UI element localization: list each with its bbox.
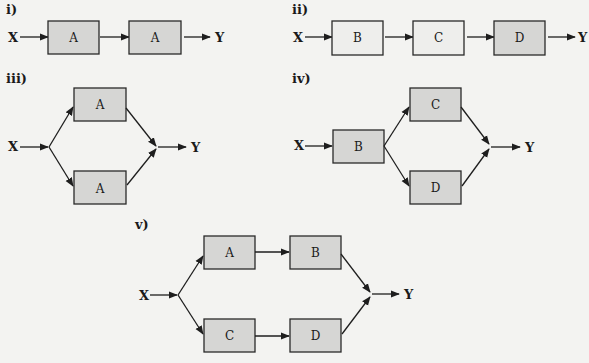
block-c-label: C [225,329,234,343]
diagram-iii-label: iii) [6,71,27,86]
diagram-ii-output: Y [577,30,588,45]
diagram-ii-label: ii) [292,2,308,17]
diagram-v-output: Y [403,287,414,302]
block-a-2-label: A [150,31,160,45]
block-a-bottom-label: A [95,182,105,196]
diagram-i-output: Y [214,30,225,45]
diagram-iv-output: Y [524,140,535,155]
diagram-iv-input: X [294,138,305,153]
arrow [127,149,156,185]
arrow [178,295,203,334]
diagram-i: i) X A A Y [6,2,225,54]
block-c-label: C [431,98,440,112]
arrow [49,107,73,147]
diagram-v-input: X [139,288,150,303]
arrow [462,149,489,186]
arrow [49,147,73,186]
diagram-canvas: i) X A A Y ii) X B C D Y iii) X A A [0,0,589,363]
block-a-top-label: A [95,98,105,112]
block-d-label: D [431,181,441,195]
block-b-label: B [354,140,363,154]
arrow [341,254,370,292]
diagram-iii: iii) X A A Y [6,71,201,204]
block-a-label: A [224,246,234,260]
diagram-ii-input: X [293,30,304,45]
diagram-iv-label: iv) [292,71,311,86]
diagram-i-label: i) [6,2,17,17]
block-b-label: B [311,246,320,260]
block-c-label: C [434,31,443,45]
diagram-iii-output: Y [190,140,201,155]
reliability-block-diagrams: i) X A A Y ii) X B C D Y iii) X A A [0,0,589,363]
diagram-iv: iv) X B C D Y [292,71,535,204]
arrow [384,146,409,186]
block-d-label: D [515,31,525,45]
diagram-v: v) X A B C D Y [134,217,414,352]
block-b-label: B [353,31,362,45]
diagram-i-input: X [8,30,19,45]
block-d-label: D [311,329,321,343]
diagram-iii-input: X [8,139,19,154]
arrow [461,107,489,144]
diagram-v-label: v) [134,217,149,232]
arrow [126,108,156,146]
arrow [178,256,203,295]
arrow [384,107,409,146]
arrow [342,297,370,334]
block-a-1-label: A [68,31,78,45]
diagram-ii: ii) X B C D Y [292,2,588,55]
